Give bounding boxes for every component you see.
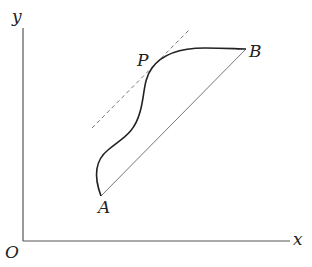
point-a-label: A <box>96 197 110 217</box>
mean-value-diagram: y x O A B P <box>0 0 312 267</box>
y-axis-label: y <box>11 6 22 26</box>
point-b-label: B <box>248 41 262 61</box>
point-p-label: P <box>136 50 149 70</box>
tangent-line-at-p <box>92 29 190 128</box>
origin-label: O <box>5 242 19 262</box>
chord-ab <box>101 49 246 196</box>
x-axis-label: x <box>293 229 303 249</box>
curve-a-to-b <box>97 48 246 196</box>
